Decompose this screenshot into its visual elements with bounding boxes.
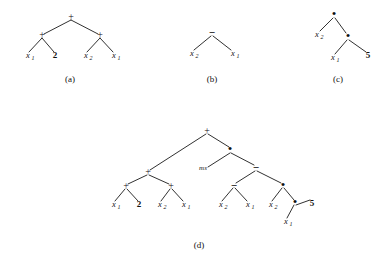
panel-caption-b: (b) <box>207 74 218 84</box>
leaf-x1-d1-subscript: 1 <box>118 204 121 210</box>
tree-edge <box>335 18 346 33</box>
panel-caption-a: (a) <box>65 74 75 84</box>
node-left-op-a: + <box>39 29 45 40</box>
node-left-left-plus-d: + <box>123 180 129 191</box>
tree-edge <box>208 134 229 147</box>
panel-caption-c: (c) <box>333 74 343 84</box>
node-right-times-d: • <box>228 141 233 156</box>
tree-edge <box>213 36 231 50</box>
leaf-x2-c: x <box>314 29 319 39</box>
leaf-x2-d2-subscript: 2 <box>225 204 228 210</box>
leaf-x2-a: x <box>83 50 88 60</box>
node-rm-rr-times-d: • <box>293 194 298 209</box>
node-left-right-plus-d: + <box>168 180 174 191</box>
node-left-plus-d: + <box>145 166 151 177</box>
tree-edge <box>296 200 310 205</box>
leaf-x1-d3: x <box>245 199 250 209</box>
tree-edge <box>44 20 71 34</box>
node-right-op-c: • <box>346 28 351 43</box>
tree-edge <box>349 40 366 52</box>
tree-edge <box>71 20 98 34</box>
leaf-x1-d1: x <box>111 199 116 209</box>
tree-edge <box>194 36 211 50</box>
tree-edge <box>257 171 281 183</box>
leaf-5-d: 5 <box>310 198 315 208</box>
leaf-x2-d1-subscript: 2 <box>164 204 167 210</box>
leaf-x1-c-subscript: 1 <box>337 57 340 63</box>
leaf-x1-d4: x <box>283 216 288 226</box>
leaf-x2-d3-subscript: 2 <box>275 204 278 210</box>
leaf-x2-d1: x <box>157 199 162 209</box>
node-rm-left-minus-d: − <box>231 179 237 191</box>
leaf-x1-c: x <box>330 52 335 62</box>
tree-edge <box>231 153 254 165</box>
leaf-x1b-a: x <box>111 50 116 60</box>
tree-diagram-canvas: +++x12x2x1(a)−x2x1(b)••x2x15(c)++++•−−••… <box>0 0 389 262</box>
leaf-2-a: 2 <box>53 50 58 60</box>
node-root-d: + <box>204 125 210 136</box>
leaf-x1-d2-subscript: 1 <box>188 204 191 210</box>
leaf-x1-a: x <box>25 50 30 60</box>
panel-c: ••x2x15(c) <box>314 6 371 84</box>
panel-b: −x2x1(b) <box>189 26 239 84</box>
leaf-x1-d4-subscript: 1 <box>290 221 293 227</box>
leaf-x2-c-subscript: 2 <box>321 34 324 40</box>
leaf-x1-a-subscript: 1 <box>32 55 35 61</box>
leaf-5-c: 5 <box>366 50 371 60</box>
node-root-c: • <box>332 6 337 21</box>
leaf-x2-d3: x <box>268 199 273 209</box>
panel-caption-d: (d) <box>194 240 205 250</box>
leaf-x2-d2: x <box>218 199 223 209</box>
leaf-x1-b: x <box>230 48 235 58</box>
panel-d: ++++•−−••x12x2x1x2x1x2x15ms(d) <box>111 125 315 250</box>
tree-edge <box>236 171 255 183</box>
leaf-x1b-a-subscript: 1 <box>118 55 121 61</box>
tree-edge <box>150 134 206 170</box>
node-right-minus-d: − <box>253 161 259 173</box>
leaf-x2-b-subscript: 2 <box>196 53 199 59</box>
leaf-2-d: 2 <box>137 199 142 209</box>
leaf-x2-b: x <box>189 48 194 58</box>
tree-edge <box>149 175 169 184</box>
node-root-b: − <box>209 26 215 38</box>
node-rm-right-times-d: • <box>281 177 286 192</box>
leaf-x1-d3-subscript: 1 <box>252 204 255 210</box>
leaf-x1-d2: x <box>181 199 186 209</box>
figure-root: +++x12x2x1(a)−x2x1(b)••x2x15(c)++++•−−••… <box>0 0 389 262</box>
panel-a: +++x12x2x1(a) <box>25 11 120 84</box>
leaf-x2-a-subscript: 2 <box>90 55 93 61</box>
tree-edge <box>208 153 230 167</box>
tree-edge <box>128 175 147 184</box>
leaf-x1-b-subscript: 1 <box>237 53 240 59</box>
node-root-a: + <box>68 11 74 22</box>
ms-label: ms <box>199 164 207 172</box>
node-right-op-a: + <box>97 29 103 40</box>
